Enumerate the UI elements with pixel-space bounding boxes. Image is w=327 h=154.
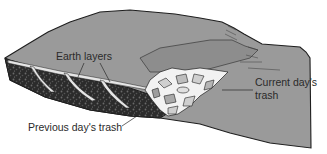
label-previous-trash: Previous day's trash bbox=[28, 121, 122, 133]
label-current-trash-line2: trash bbox=[255, 89, 278, 101]
label-earth-layers: Earth layers bbox=[56, 50, 112, 62]
label-current-trash-line1: Current day's bbox=[255, 76, 317, 88]
